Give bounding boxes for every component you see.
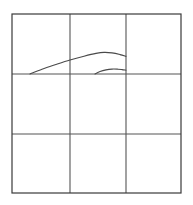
figure-root [0, 0, 193, 205]
chart-canvas [0, 0, 193, 205]
chart-background [0, 0, 193, 205]
